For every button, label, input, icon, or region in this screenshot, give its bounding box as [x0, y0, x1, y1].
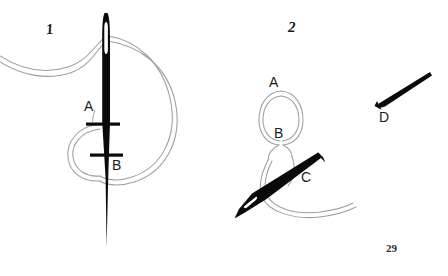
- figure2-point-label-c: C: [301, 170, 311, 184]
- figure1-point-label-b: B: [112, 158, 121, 172]
- needle-illustration-canvas: [0, 0, 448, 276]
- figure2-point-label-d: D: [379, 110, 389, 124]
- figure1-point-label-a: A: [84, 99, 93, 113]
- figure1-crossbar-a: [86, 123, 120, 126]
- page-number: 29: [386, 243, 397, 254]
- page-background: [0, 0, 448, 276]
- figure-2-number: 2: [288, 20, 296, 35]
- illustration-page: 1 2 A B A B C D 29: [0, 0, 448, 276]
- figure2-point-label-b: B: [274, 126, 283, 140]
- figure2-point-label-a: A: [269, 75, 278, 89]
- figure-1-number: 1: [45, 22, 54, 38]
